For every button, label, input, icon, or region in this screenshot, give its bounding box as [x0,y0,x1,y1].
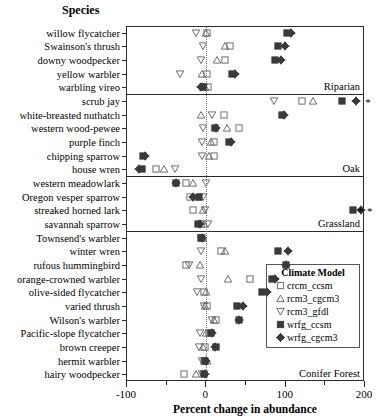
y-axis-tick [122,292,126,293]
data-point-rcm3_gfdl [197,56,206,65]
data-point-rcm3_cgcm3 [309,97,318,106]
significance-asterisk: * [367,206,373,217]
data-point-wrfg_ccsm [273,247,282,256]
data-point-rcm3_gfdl [175,69,184,78]
data-point-wrfg_cgcm3 [195,219,204,228]
y-axis-tick [122,115,126,116]
y-axis-tick [122,128,126,129]
legend-label: wrfg_cgcm3 [287,332,338,343]
y-axis-tick [122,210,126,211]
species-label: rufous hummingbird [33,259,120,270]
data-point-rcm3_cgcm3 [202,288,211,297]
x-axis-tick [126,381,127,387]
y-axis-tick [122,238,126,239]
data-point-wrfg_cgcm3 [230,69,239,78]
data-point-wrfg_cgcm3 [282,260,291,269]
x-axis-tick-label: 200 [356,388,373,400]
data-point-rcm3_gfdl [208,110,217,119]
x-axis-tick [166,381,167,385]
data-point-wrfg_cgcm3 [287,28,296,37]
data-point-rcm3_cgcm3 [222,124,231,133]
legend: Climate Model crcm_ccsmrcm3_cgcm3rcm3_gf… [266,264,360,348]
data-point-crcm_ccsm [188,206,197,215]
species-label: yellow warbler [57,68,120,79]
data-point-rcm3_gfdl [196,274,205,283]
legend-label: rcm3_gfdl [287,306,329,317]
species-label: western wood-pewee [31,123,120,134]
data-point-crcm_ccsm [234,124,243,133]
x-axis-tick [245,381,246,385]
data-point-rcm3_gfdl [201,206,210,215]
data-point-crcm_ccsm [219,110,228,119]
species-label: Townsend's warbler [36,232,120,243]
legend-item-rcm3_gfdl[interactable]: rcm3_gfdl [267,305,359,318]
data-point-wrfg_cgcm3 [263,288,272,297]
species-label: scrub jay [82,96,120,107]
significance-asterisk: * [365,97,371,108]
species-label: savannah sparrow [44,218,120,229]
species-label: white-breasted nuthatch [19,109,120,120]
species-label: varied thrush [65,300,120,311]
species-label: warbling vireo [58,82,120,93]
panel-separator [127,176,363,177]
y-axis-tick [122,74,126,75]
y-axis-tick [122,279,126,280]
species-column-header: Species [62,3,99,18]
legend-marker-filled-diamond-crossed-icon [273,333,287,342]
data-point-rcm3_gfdl [196,247,205,256]
x-axis-tick [364,381,365,387]
zero-reference-line [206,27,207,380]
data-point-rcm3_cgcm3 [160,165,169,174]
data-point-wrfg_cgcm3 [283,247,292,256]
species-label: Wilson's warbler [49,314,120,325]
data-point-rcm3_gfdl [195,329,204,338]
species-label: Swainson's thrush [44,41,120,52]
data-point-wrfg_cgcm3 [281,42,290,51]
legend-item-rcm3_cgcm3[interactable]: rcm3_cgcm3 [267,292,359,305]
data-point-wrfg_cgcm3 [239,301,248,310]
y-axis-tick [122,87,126,88]
data-point-rcm3_gfdl [171,165,180,174]
data-point-rcm3_gfdl [185,260,194,269]
legend-item-wrfg_cgcm3[interactable]: wrfg_cgcm3 [267,331,359,344]
legend-item-crcm_ccsm[interactable]: crcm_ccsm [267,279,359,292]
data-point-wrfg_cgcm3 [210,342,219,351]
y-axis-tick [122,156,126,157]
data-point-wrfg_cgcm3 [235,315,244,324]
x-axis-tick [285,381,286,387]
data-point-wrfg_cgcm3 [279,110,288,119]
data-point-rcm3_gfdl [269,97,278,106]
data-point-wrfg_cgcm3 [200,370,209,379]
data-point-rcm3_cgcm3 [223,274,232,283]
y-axis-tick [122,142,126,143]
chart-figure: Species RiparianOakGrasslandConifer Fore… [0,0,382,419]
y-axis-tick [122,306,126,307]
legend-item-wrfg_ccsm[interactable]: wrfg_ccsm [267,318,359,331]
x-axis-tick-label: -100 [116,388,136,400]
data-point-wrfg_cgcm3 [202,356,211,365]
data-point-wrfg_cgcm3 [226,138,235,147]
species-label: winter wren [70,246,120,257]
data-point-rcm3_cgcm3 [206,138,215,147]
legend-marker-filled-square-icon [273,320,287,329]
species-label: willow flycatcher [46,27,120,38]
data-point-rcm3_gfdl [198,124,207,133]
data-point-crcm_ccsm [298,97,307,106]
data-point-wrfg_cgcm3 [271,274,280,283]
data-point-rcm3_gfdl [198,42,207,51]
species-label: olive-sided flycatcher [29,287,120,298]
species-label: hairy woodpecker [44,369,120,380]
data-point-rcm3_gfdl [193,288,202,297]
data-point-crcm_ccsm [179,370,188,379]
x-axis-title: Percent change in abundance [173,403,317,415]
data-point-rcm3_gfdl [198,138,207,147]
data-point-rcm3_gfdl [198,151,207,160]
data-point-wrfg_ccsm [337,97,346,106]
data-point-rcm3_gfdl [207,315,216,324]
data-point-rcm3_gfdl [202,179,211,188]
panel-separator [127,94,363,95]
data-point-rcm3_cgcm3 [188,179,197,188]
y-axis-tick [122,46,126,47]
legend-label: rcm3_cgcm3 [287,293,339,304]
data-point-rcm3_gfdl [203,219,212,228]
